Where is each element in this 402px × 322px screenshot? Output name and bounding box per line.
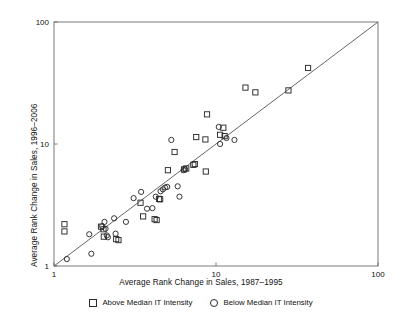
data-point-circle (150, 206, 155, 211)
data-point-circle (87, 232, 92, 237)
data-point-square (203, 137, 208, 142)
x-axis-tick-label: 10 (212, 270, 221, 279)
data-point-circle (217, 141, 222, 146)
legend-label-below-median: Below Median IT Intensity (223, 298, 312, 307)
data-point-circle (123, 219, 128, 224)
circle-marker-icon (210, 299, 218, 307)
data-point-square (62, 229, 67, 234)
data-point-square (172, 149, 177, 154)
data-point-circle (169, 137, 174, 142)
legend-item-below-median: Below Median IT Intensity (210, 298, 312, 307)
data-point-square (203, 169, 208, 174)
data-point-circle (175, 184, 180, 189)
x-axis-label: Average Rank Change in Sales, 1987–1995 (0, 278, 402, 287)
data-point-circle (102, 219, 107, 224)
data-point-circle (89, 251, 94, 256)
legend-label-above-median: Above Median IT Intensity (102, 298, 192, 307)
y-axis-tick-label: 100 (36, 18, 49, 27)
data-point-circle (144, 206, 149, 211)
series-above-median (62, 65, 311, 242)
y-axis-label-container: Average Rank Change in Sales, 1996–2006 (0, 0, 30, 280)
square-marker-icon (89, 299, 97, 307)
y-axis-tick-label: 10 (40, 140, 49, 149)
data-point-circle (131, 196, 136, 201)
data-point-circle (112, 216, 117, 221)
data-point-square (204, 112, 209, 117)
plot-canvas (0, 0, 402, 322)
x-axis-tick-label: 1 (52, 270, 56, 279)
y-axis-label: Average Rank Change in Sales, 1996–2006 (30, 103, 39, 267)
data-point-circle (64, 256, 69, 261)
data-point-square (62, 222, 67, 227)
y-axis-tick-label: 1 (45, 262, 49, 271)
chart-legend: Above Median IT Intensity Below Median I… (0, 298, 402, 307)
data-point-square (165, 168, 170, 173)
data-point-square (243, 85, 248, 90)
x-axis-tick-label: 100 (371, 270, 384, 279)
data-point-circle (232, 137, 237, 142)
legend-item-above-median: Above Median IT Intensity (89, 298, 192, 307)
data-point-square (194, 134, 199, 139)
data-point-square (141, 214, 146, 219)
data-point-circle (139, 189, 144, 194)
data-point-circle (113, 231, 118, 236)
data-point-square (253, 90, 258, 95)
data-point-circle (177, 194, 182, 199)
scatter-plot-figure: Average Rank Change in Sales, 1996–2006 … (0, 0, 402, 322)
data-point-square (305, 65, 310, 70)
